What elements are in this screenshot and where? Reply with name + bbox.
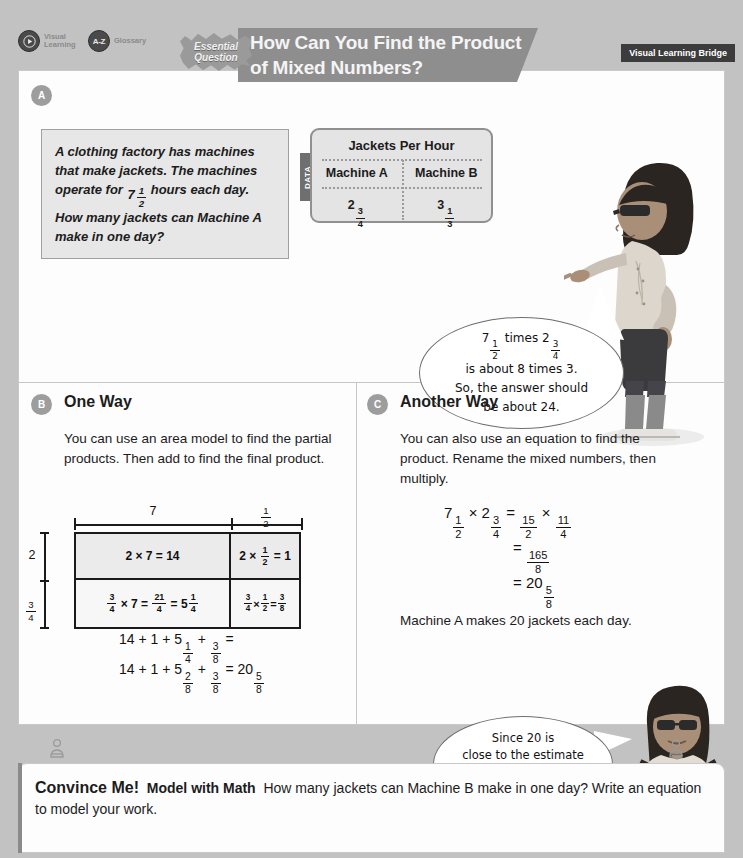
area-model-cell-r2c1: 34 × 7 = 214 = 514	[76, 580, 231, 627]
person-icon-right	[667, 738, 685, 758]
page-title-line1: How Can You Find the Product	[250, 30, 550, 55]
convince-me-question-line1: How many jackets can Machine B	[263, 780, 473, 796]
brace-tick	[74, 518, 76, 530]
page-title-line2: of Mixed Numbers?	[250, 55, 550, 80]
area-model-row-label-2: 34	[20, 592, 42, 623]
bubble2-line-1: Since 20 is	[492, 730, 554, 747]
essential-question-line1: Essential	[194, 41, 238, 52]
brace-tick	[301, 518, 303, 530]
brace-tick	[40, 580, 49, 582]
equation-line-1: 712 × 234 = 152 × 114	[444, 504, 572, 540]
section-c-body: You can also use an equation to find the…	[400, 429, 690, 489]
data-table-title: Jackets Per Hour	[348, 130, 454, 153]
section-b-body: You can use an area model to find the pa…	[64, 429, 346, 469]
table-header-machine-b: Machine B	[402, 161, 492, 185]
area-model-grid: 2 × 7 = 14 2 × 12 = 1 34 × 7 = 214 = 514…	[74, 532, 301, 629]
area-model-cell-r2c2: 34×12=38	[231, 580, 299, 627]
area-model-col-label-2: 12	[242, 498, 290, 529]
bubble-line-1: 712 times 234	[482, 329, 562, 361]
area-model-cell-r1c1: 2 × 7 = 14	[76, 534, 231, 580]
person-icon-left	[48, 738, 66, 758]
convince-me-accent-bar	[18, 763, 22, 853]
convince-me-section: Convince Me! Model with Math How many ja…	[18, 763, 725, 853]
bubble2-line-2: close to the estimate	[462, 747, 584, 764]
glossary-button[interactable]: A-Z Glossary	[88, 30, 148, 52]
convince-me-label: Convince Me!	[35, 779, 139, 796]
visual-learning-button[interactable]: Visual Learning	[18, 30, 78, 52]
convince-me-text: Convince Me! Model with Math How many ja…	[35, 777, 708, 820]
divider-vertical	[356, 382, 357, 726]
section-marker-b: B	[31, 394, 52, 415]
lesson-canvas: A A clothing factory has machines that m…	[18, 70, 725, 725]
problem-statement: A clothing factory has machines that mak…	[41, 129, 289, 259]
brace-tick	[40, 627, 49, 629]
data-table: Jackets Per Hour Machine A Machine B 234…	[310, 128, 493, 223]
section-marker-a: A	[31, 85, 52, 106]
equation-line-3: = 2058	[513, 574, 555, 610]
area-model-row-2: 34 × 7 = 214 = 514 34×12=38	[76, 580, 299, 627]
table-column-divider	[402, 160, 404, 220]
brace-tick	[231, 518, 233, 530]
section-c-heading: Another Way	[400, 393, 498, 411]
section-b-heading: One Way	[64, 393, 132, 411]
area-model-row-1: 2 × 7 = 14 2 × 12 = 1	[76, 534, 299, 580]
textbook-page: Visual Learning A-Z Glossary Essential Q…	[0, 0, 743, 858]
visual-learning-label: Visual Learning	[44, 33, 78, 50]
az-glossary-icon: A-Z	[88, 30, 110, 52]
equation-line-2: = 1658	[513, 539, 550, 575]
table-value-machine-a: 234	[312, 193, 402, 234]
visual-learning-bridge-badge: Visual Learning Bridge	[621, 44, 735, 62]
area-model-col-label-1: 7	[129, 504, 177, 518]
section-c-conclusion: Machine A makes 20 jackets each day.	[400, 611, 650, 631]
page-title: How Can You Find the Product of Mixed Nu…	[250, 30, 550, 80]
bubble-line-2: is about 8 times 3.	[466, 360, 578, 379]
convince-me-practice: Model with Math	[147, 780, 256, 796]
estimate-speech-bubble: 712 times 234 is about 8 times 3. So, th…	[419, 317, 624, 429]
section-marker-c: C	[367, 394, 388, 415]
video-icon	[18, 30, 40, 52]
area-model-cell-r1c2: 2 × 12 = 1	[231, 534, 299, 580]
glossary-label: Glossary	[114, 37, 148, 46]
problem-mixed-fraction: 7	[128, 188, 135, 201]
essential-question-line2: Question	[194, 52, 237, 63]
table-value-machine-b: 313	[402, 193, 492, 234]
area-model-row-label-1: 2	[22, 548, 42, 562]
sum-line-2: 14 + 1 + 528 + 38 = 2058	[119, 661, 265, 696]
table-header-machine-a: Machine A	[312, 161, 402, 185]
brace-tick	[40, 532, 49, 534]
